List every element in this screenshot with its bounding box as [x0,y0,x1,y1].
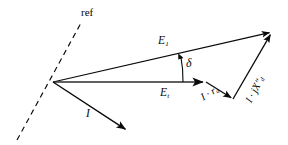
vector-current-i [53,82,126,129]
et-label-base: E [160,86,167,98]
et-label: Et [160,87,169,100]
et-label-subscript: t [167,92,169,100]
e1-label-subscript: 1 [165,40,169,48]
phasor-diagram: ref E1 δ Et I · ra I · jX″d I [0,0,288,145]
e1-label: E1 [158,35,169,48]
current-i-label: I [86,108,90,120]
phasor-diagram-canvas [0,0,288,145]
e1-label-base: E [158,34,165,46]
delta-arc-arrowhead [178,53,183,59]
delta-angle-label: δ [186,57,192,69]
delta-angle-arc [181,56,183,82]
ref-label: ref [81,7,93,18]
